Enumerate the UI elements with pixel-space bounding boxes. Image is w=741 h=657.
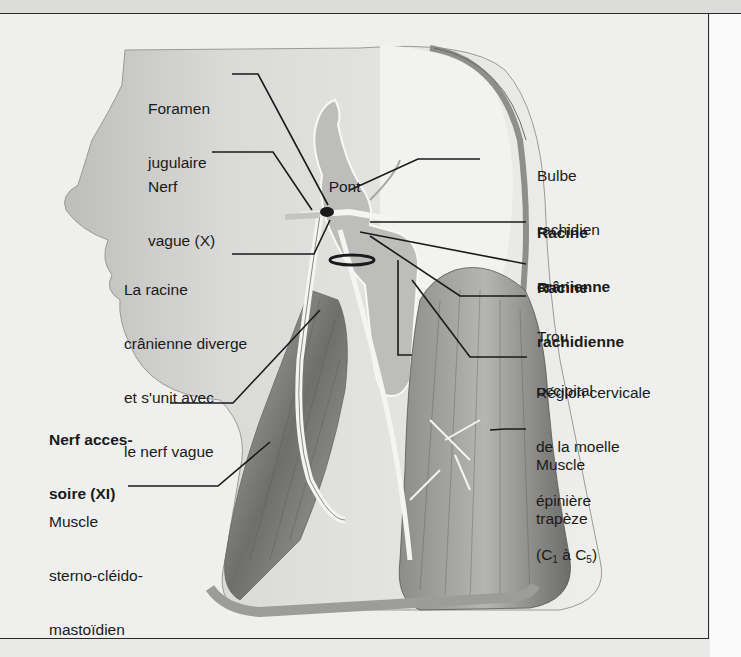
- label-line: La racine: [124, 281, 247, 299]
- label-line: crânienne diverge: [124, 335, 247, 353]
- label-line: et s'unit avec: [124, 389, 247, 407]
- label-line: Bulbe: [537, 167, 600, 185]
- label-line: (C1 à C5): [536, 546, 651, 569]
- label-muscle-scm: Muscle sterno-cléido- mastoïdien: [49, 477, 143, 657]
- label-line: Muscle: [49, 513, 143, 531]
- label-part: ): [592, 546, 597, 563]
- label-line: Trou: [537, 328, 593, 346]
- label-line: Nerf: [148, 178, 215, 196]
- label-line: mastoïdien: [49, 621, 143, 639]
- label-line: le nerf vague: [124, 443, 247, 461]
- label-part: à C: [558, 546, 586, 563]
- label-line: Foramen: [148, 100, 210, 118]
- label-pont: Pont: [320, 160, 361, 196]
- label-line: Racine: [537, 224, 610, 242]
- label-line: Nerf acces-: [49, 431, 133, 449]
- label-line: Pont: [329, 178, 361, 195]
- label-line: trapèze: [536, 510, 588, 528]
- label-line: Région cervicale: [536, 384, 651, 402]
- label-part: (C: [536, 546, 552, 563]
- label-line: Muscle: [536, 456, 588, 474]
- label-line: sterno-cléido-: [49, 567, 143, 585]
- label-muscle-trapeze: Muscle trapèze: [536, 420, 588, 546]
- label-racine-diverge: La racine crânienne diverge et s'unit av…: [124, 245, 247, 479]
